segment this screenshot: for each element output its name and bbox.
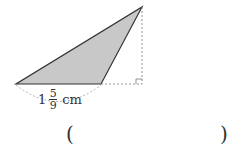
shaded-triangle <box>16 7 142 84</box>
answer-open-paren: ( <box>66 122 74 146</box>
denominator: 9 <box>50 100 57 111</box>
numerator: 5 <box>50 88 57 99</box>
fraction: 5 9 <box>49 88 57 111</box>
base-length-label: 1 5 9 cm <box>38 88 82 111</box>
whole-number: 1 <box>38 92 46 107</box>
unit: cm <box>62 92 82 107</box>
answer-blank[interactable] <box>80 126 220 146</box>
answer-close-paren: ) <box>220 122 228 146</box>
right-angle-marker <box>136 79 142 84</box>
